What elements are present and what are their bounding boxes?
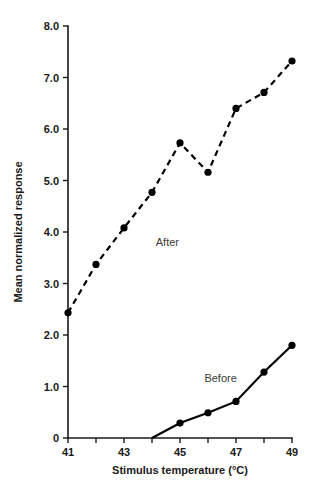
x-axis-tick-labels: 4143454749 <box>62 446 298 458</box>
x-tick-label: 43 <box>118 446 130 458</box>
data-point-before-49 <box>288 342 295 349</box>
series-line-after <box>68 61 292 313</box>
data-point-after-45 <box>176 139 183 146</box>
series-line-before <box>152 345 292 438</box>
data-point-after-43 <box>120 224 127 231</box>
y-tick-label: 2.0 <box>44 329 59 341</box>
y-tick-label: 3.0 <box>44 278 59 290</box>
series-after <box>64 57 295 316</box>
y-tick-label: 8.0 <box>44 20 59 32</box>
chart-annotations: AfterBefore <box>156 236 237 384</box>
y-tick-label: 6.0 <box>44 123 59 135</box>
y-tick-label: 7.0 <box>44 72 59 84</box>
x-tick-label: 47 <box>230 446 242 458</box>
data-point-after-46 <box>204 169 211 176</box>
series-before <box>152 342 296 438</box>
y-axis-title: Mean normalized response <box>12 161 24 302</box>
y-tick-label: 0 <box>53 432 59 444</box>
data-point-before-48 <box>260 368 267 375</box>
data-point-after-44 <box>148 189 155 196</box>
data-point-before-46 <box>204 409 211 416</box>
x-tick-label: 49 <box>286 446 298 458</box>
x-tick-label: 41 <box>62 446 74 458</box>
chart-series-layer <box>64 57 295 438</box>
series-annotation-after: After <box>156 236 180 248</box>
y-axis-tick-labels: 01.02.03.04.05.06.07.08.0 <box>44 20 59 444</box>
x-tick-label: 45 <box>174 446 186 458</box>
data-point-after-41 <box>64 309 71 316</box>
data-point-before-45 <box>176 419 183 426</box>
data-point-after-47 <box>232 105 239 112</box>
data-point-after-42 <box>92 261 99 268</box>
y-tick-label: 1.0 <box>44 381 59 393</box>
y-tick-label: 4.0 <box>44 226 59 238</box>
x-axis-title: Stimulus temperature (°C) <box>112 464 248 476</box>
data-point-after-48 <box>260 89 267 96</box>
y-tick-label: 5.0 <box>44 175 59 187</box>
chart-figure: 01.02.03.04.05.06.07.08.0 4143454749 Mea… <box>0 0 319 488</box>
data-point-before-47 <box>232 398 239 405</box>
series-annotation-before: Before <box>204 372 236 384</box>
axis-lines <box>68 26 292 438</box>
chart-axes <box>63 26 292 443</box>
line-chart: 01.02.03.04.05.06.07.08.0 4143454749 Mea… <box>0 0 319 488</box>
data-point-after-49 <box>288 57 295 64</box>
